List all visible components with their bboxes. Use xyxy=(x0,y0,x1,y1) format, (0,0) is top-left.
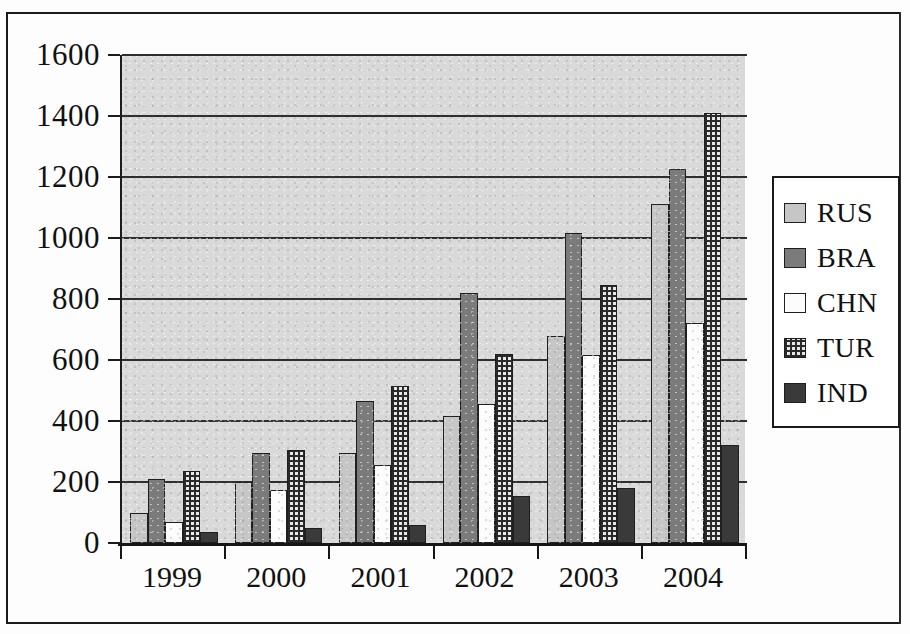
bar-rus-2002 xyxy=(443,416,461,543)
white-swatch-icon xyxy=(784,293,806,313)
bar-bra-2004 xyxy=(669,169,687,543)
bar-tur-2003 xyxy=(600,285,618,543)
x-axis-tick xyxy=(433,546,435,559)
bar-ind-2002 xyxy=(513,496,531,543)
legend-item-rus[interactable]: RUS xyxy=(784,190,898,235)
bar-chart-figure: 02004006008001000120014001600 1999200020… xyxy=(0,0,910,634)
gridline xyxy=(122,115,747,117)
legend-label: TUR xyxy=(817,334,875,362)
bar-tur-2002 xyxy=(495,354,513,543)
y-axis-tick-label: 800 xyxy=(12,283,100,314)
y-axis-tick-label: 600 xyxy=(12,344,100,375)
bar-ind-2004 xyxy=(721,445,739,543)
bar-chn-2004 xyxy=(686,323,704,543)
y-axis-tick-label: 400 xyxy=(12,405,100,436)
bar-bra-2003 xyxy=(565,233,583,543)
x-axis-tick xyxy=(328,546,330,559)
gridline xyxy=(122,54,747,56)
bar-rus-2004 xyxy=(651,204,669,543)
legend-label: RUS xyxy=(817,199,873,227)
legend-item-bra[interactable]: BRA xyxy=(784,235,898,280)
bar-ind-1999 xyxy=(200,532,218,543)
y-axis-tick xyxy=(108,237,120,239)
light-gray-swatch-icon xyxy=(784,203,806,223)
y-axis-tick xyxy=(108,542,120,544)
legend-label: IND xyxy=(817,379,868,407)
x-axis-tick-label: 2000 xyxy=(224,562,328,592)
legend-item-ind[interactable]: IND xyxy=(784,370,898,415)
x-axis-tick xyxy=(224,546,226,559)
y-axis-tick-label: 200 xyxy=(12,466,100,497)
bar-chn-1999 xyxy=(165,522,183,543)
bar-tur-2000 xyxy=(287,450,305,543)
x-axis-tick xyxy=(641,546,643,559)
legend-item-tur[interactable]: TUR xyxy=(784,325,898,370)
x-axis-tick-label: 2003 xyxy=(537,562,641,592)
y-axis-tick-label: 1000 xyxy=(12,222,100,253)
y-axis-tick xyxy=(108,359,120,361)
y-axis-tick-label: 1600 xyxy=(12,39,100,70)
y-axis-tick xyxy=(108,176,120,178)
x-axis-tick-label: 2002 xyxy=(433,562,537,592)
bar-bra-1999 xyxy=(148,479,166,543)
y-axis-tick xyxy=(108,115,120,117)
y-axis-tick-label: 0 xyxy=(12,527,100,558)
bar-tur-2004 xyxy=(704,113,722,543)
bar-bra-2002 xyxy=(460,293,478,543)
bar-tur-1999 xyxy=(183,471,201,543)
legend-label: CHN xyxy=(817,289,878,317)
x-axis-tick-label: 2004 xyxy=(641,562,745,592)
bar-tur-2001 xyxy=(391,386,409,543)
x-axis-tick-label: 2001 xyxy=(328,562,432,592)
bar-bra-2000 xyxy=(252,453,270,543)
plot-area xyxy=(120,55,745,543)
bar-rus-2001 xyxy=(339,453,357,543)
medium-gray-swatch-icon xyxy=(784,248,806,268)
bar-ind-2000 xyxy=(305,528,323,543)
legend-label: BRA xyxy=(817,244,876,272)
y-axis-tick xyxy=(108,298,120,300)
checkered-swatch-icon xyxy=(784,338,806,358)
y-axis-tick-label: 1400 xyxy=(12,100,100,131)
x-axis-tick-label: 1999 xyxy=(120,562,224,592)
bar-chn-2000 xyxy=(270,490,288,543)
bar-ind-2003 xyxy=(617,488,635,543)
chart-legend: RUSBRACHNTURIND xyxy=(772,176,900,428)
dark-gray-swatch-icon xyxy=(784,383,806,403)
legend-item-chn[interactable]: CHN xyxy=(784,280,898,325)
x-axis-tick xyxy=(537,546,539,559)
y-axis-tick xyxy=(108,420,120,422)
bar-chn-2001 xyxy=(374,465,392,543)
y-axis-tick-label: 1200 xyxy=(12,161,100,192)
x-axis-tick-origin xyxy=(120,546,122,559)
y-axis-tick xyxy=(108,54,120,56)
bar-rus-2000 xyxy=(235,482,253,543)
y-axis-tick xyxy=(108,481,120,483)
bar-chn-2003 xyxy=(582,355,600,543)
gridline xyxy=(122,176,747,178)
bar-rus-1999 xyxy=(130,513,148,544)
bar-ind-2001 xyxy=(409,525,427,543)
bar-chn-2002 xyxy=(478,404,496,543)
bar-rus-2003 xyxy=(547,336,565,543)
x-axis-tick xyxy=(745,546,747,559)
bar-bra-2001 xyxy=(356,401,374,543)
